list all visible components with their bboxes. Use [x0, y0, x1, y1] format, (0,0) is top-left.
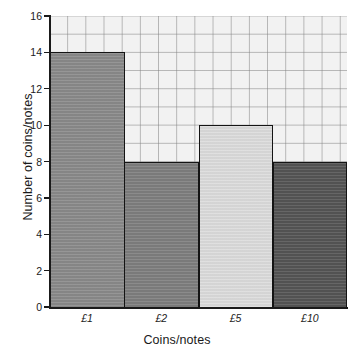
y-tick-mark [44, 88, 49, 89]
y-tick-label: 14 [30, 47, 42, 58]
bar-2 [124, 162, 199, 308]
x-tick-label: £2 [124, 313, 198, 324]
y-tick-label: 2 [36, 266, 42, 277]
y-axis-title: Number of coins/notes [21, 37, 35, 277]
x-axis-line [49, 307, 348, 309]
bar-5 [199, 125, 274, 307]
y-tick-mark [44, 15, 49, 16]
y-tick-mark [44, 161, 49, 162]
bar-10 [273, 162, 347, 308]
x-tick-label: £1 [50, 313, 124, 324]
bars-container [50, 16, 347, 307]
y-tick-mark [44, 234, 49, 235]
x-tick-label: £10 [273, 313, 347, 324]
y-tick-label: 12 [30, 84, 42, 95]
x-axis-title: Coins/notes [0, 333, 354, 347]
y-tick-label: 0 [36, 302, 42, 313]
bar-chart: Number of coins/notes 0246810121416 £1£2… [0, 0, 354, 352]
bar-1 [50, 52, 125, 307]
x-tick-label: £5 [199, 313, 273, 324]
y-tick-label: 16 [30, 11, 42, 22]
plot-area [50, 16, 347, 307]
y-tick-mark [44, 197, 49, 198]
y-tick-mark [44, 52, 49, 53]
y-tick-label: 6 [36, 193, 42, 204]
y-tick-label: 8 [36, 157, 42, 168]
y-tick-mark [44, 270, 49, 271]
y-axis-line [49, 15, 51, 308]
y-tick-label: 10 [30, 120, 42, 131]
y-tick-label: 4 [36, 229, 42, 240]
y-tick-mark [44, 125, 49, 126]
y-tick-mark [44, 306, 49, 307]
